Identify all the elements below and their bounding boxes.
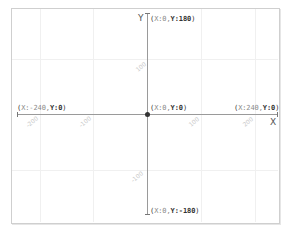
coord-label-left: (X:-240,Y:0) (17, 104, 66, 112)
gridline-x-neg200 (40, 9, 41, 222)
gridline-x-100 (201, 9, 202, 222)
coord-label-bottom: (X:0,Y:-180) (150, 207, 199, 215)
y-axis-label: Y (138, 13, 144, 23)
coord-label-origin: (X:0,Y:0) (150, 104, 187, 112)
x-axis-label: X (270, 117, 276, 127)
x-axis-right-endcap (277, 112, 278, 117)
coord-label-right: (X:240,Y:0) (234, 104, 279, 112)
gridline-x-200 (255, 9, 256, 222)
gridline-x-neg100 (93, 9, 94, 222)
x-axis-left-endcap (17, 112, 18, 117)
gridline-y-100 (12, 59, 278, 60)
gridline-y-neg100 (12, 170, 278, 171)
coord-label-top: (X:0,Y:180) (150, 15, 195, 23)
y-axis-top-endcap (145, 13, 150, 14)
origin-point (145, 112, 150, 117)
